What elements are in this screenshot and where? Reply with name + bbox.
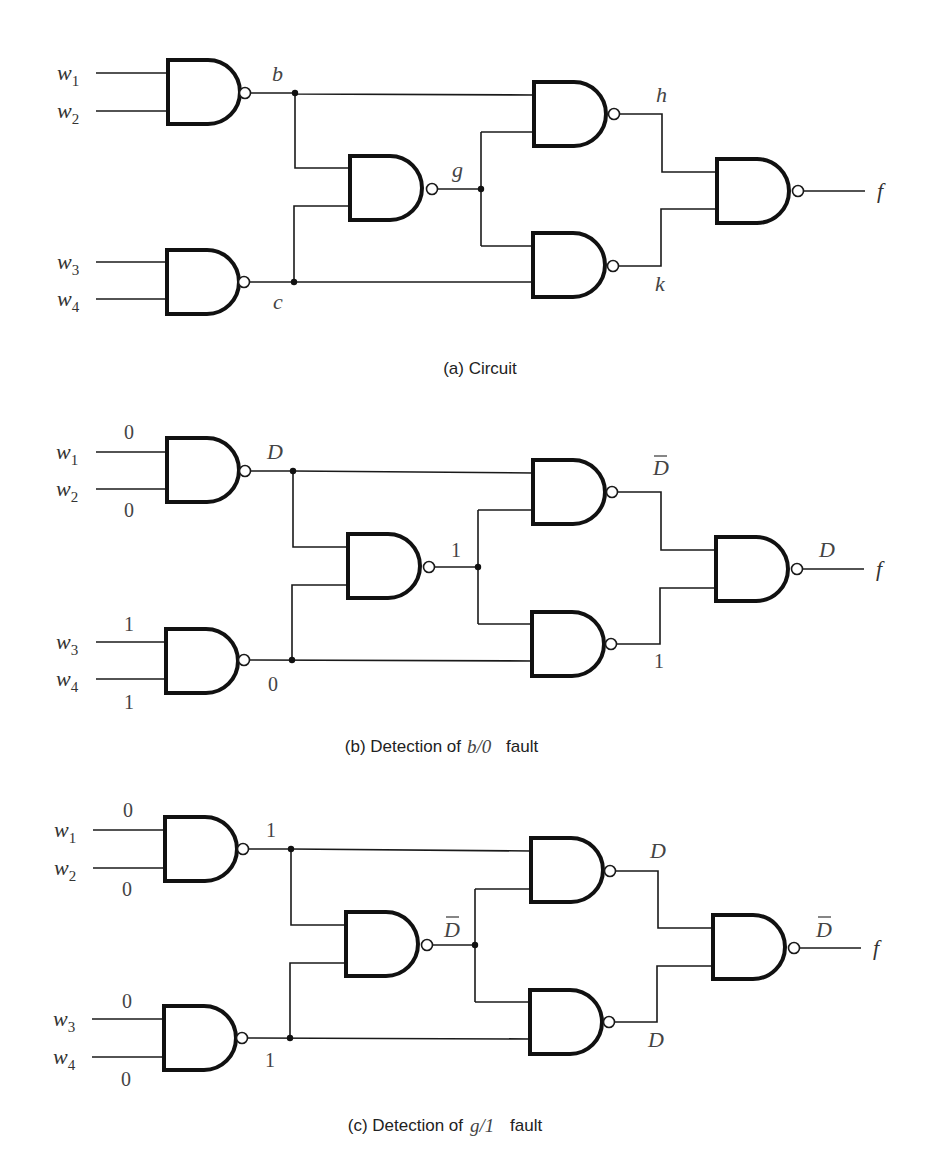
signal-label-b: b (272, 61, 283, 86)
input-label-w1: w1 (54, 817, 76, 846)
nand-gate-b (167, 438, 239, 502)
nand-gate-b (165, 817, 237, 881)
signal-value-k: D (647, 1027, 664, 1052)
nand-gate-f (713, 915, 785, 979)
inverter-bubble (239, 655, 250, 666)
signal-value-g: D (443, 917, 460, 942)
nand-gate-f (717, 159, 789, 223)
fault-detection-figure: w1 w2 w3 w4 b c g h k f (a) Circuit (0, 0, 940, 1170)
wire-c-branch (292, 585, 348, 660)
signal-value-k: 1 (654, 650, 664, 672)
caption-c-math: g/1 (470, 1115, 494, 1136)
inverter-bubble (237, 1033, 248, 1044)
junction-dot (290, 468, 296, 474)
input-label-w1: w1 (57, 60, 79, 89)
inverter-bubble (608, 261, 619, 272)
junction-dot (288, 846, 294, 852)
wire-h (619, 114, 717, 172)
inverter-bubble (793, 186, 804, 197)
output-label-f: f (876, 556, 885, 581)
signal-value-c: 1 (265, 1049, 275, 1071)
input-label-w4: w4 (57, 286, 80, 315)
input-value-w4: 0 (121, 1068, 131, 1090)
signal-value-g-text: D (443, 917, 460, 942)
caption-b-prefix: (b) Detection of (345, 737, 461, 756)
input-label-w4: w4 (56, 666, 79, 695)
inverter-bubble (607, 487, 618, 498)
junction-dot (292, 90, 298, 96)
input-label-w2: w2 (56, 476, 78, 505)
junction-dot (291, 279, 297, 285)
inverter-bubble (240, 466, 251, 477)
junction-dot (289, 657, 295, 663)
signal-label-k: k (655, 271, 666, 296)
output-value-f: D (818, 537, 835, 562)
wire-c-branch (294, 206, 350, 282)
circuit-panel-a: w1 w2 w3 w4 b c g h k f (a) Circuit (57, 60, 886, 378)
nand-gate-h (531, 838, 603, 902)
signal-label-h: h (656, 82, 667, 107)
junction-dot (478, 186, 484, 192)
input-value-w1: 0 (124, 421, 134, 443)
input-value-w4: 1 (124, 691, 134, 713)
inverter-bubble (424, 562, 435, 573)
signal-value-g: 1 (451, 539, 461, 561)
nand-gate-h (534, 82, 606, 146)
input-value-w3: 0 (122, 990, 132, 1012)
input-label-w1: w1 (56, 439, 78, 468)
signal-value-h: D (649, 838, 666, 863)
wire-k (616, 588, 716, 644)
nand-gate-b (168, 60, 240, 124)
nand-gate-g (348, 534, 420, 598)
input-label-w3: w3 (57, 249, 79, 278)
caption-c-suffix: fault (510, 1116, 542, 1135)
inverter-bubble (606, 639, 617, 650)
signal-value-c: 0 (268, 673, 278, 695)
inverter-bubble (238, 844, 249, 855)
wire-k (614, 966, 713, 1022)
nand-gate-c (166, 629, 238, 693)
input-label-w2: w2 (54, 855, 76, 884)
inverter-bubble (605, 866, 616, 877)
signal-value-h-text: D (652, 455, 669, 480)
signal-value-b: D (266, 439, 283, 464)
nand-gate-c (167, 250, 239, 314)
input-value-w1: 0 (123, 799, 133, 821)
nand-gate-g (350, 156, 422, 220)
junction-dot (475, 564, 481, 570)
output-value-f-text: D (815, 917, 832, 942)
wire-b-branch (291, 849, 346, 925)
nand-gate-k (530, 990, 602, 1054)
wire-h (615, 871, 713, 928)
signal-label-c: c (273, 289, 283, 314)
input-value-w2: 0 (124, 499, 134, 521)
nand-gate-f (716, 537, 788, 601)
inverter-bubble (789, 943, 800, 954)
caption-b-suffix: fault (506, 737, 538, 756)
wire-k (618, 209, 717, 266)
signal-value-h: D (652, 455, 669, 480)
signal-label-g: g (452, 157, 463, 182)
input-label-w3: w3 (56, 629, 78, 658)
wire-h (617, 492, 716, 550)
output-label-f: f (877, 178, 886, 203)
output-label-f: f (873, 935, 882, 960)
nand-gate-c (164, 1006, 236, 1070)
circuit-panel-b: w1 w2 w3 w4 0 0 1 1 D 0 1 D 1 D f (b) De… (56, 421, 885, 757)
inverter-bubble (427, 184, 438, 195)
inverter-bubble (240, 88, 251, 99)
junction-dot (287, 1035, 293, 1041)
junction-dot (472, 942, 478, 948)
inverter-bubble (604, 1017, 615, 1028)
inverter-bubble (422, 940, 433, 951)
inverter-bubble (792, 564, 803, 575)
nand-gate-g (346, 912, 418, 976)
input-label-w4: w4 (53, 1044, 76, 1073)
output-value-f: D (815, 917, 832, 942)
input-label-w3: w3 (53, 1006, 75, 1035)
nand-gate-k (533, 233, 605, 297)
nand-gate-h (533, 460, 605, 524)
input-value-w2: 0 (122, 878, 132, 900)
caption-c-prefix: (c) Detection of (348, 1116, 464, 1135)
inverter-bubble (609, 109, 620, 120)
